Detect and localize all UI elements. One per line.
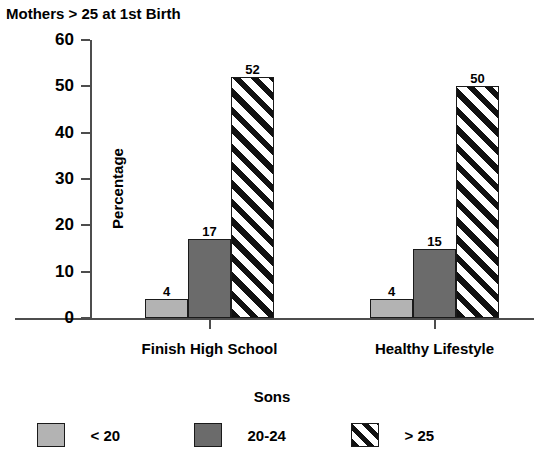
chart-legend: < 2020-24> 25 [0,418,544,452]
bar-chart: Mothers > 25 at 1st Birth 0102030405060 … [0,0,544,463]
y-axis-tick-label-wrap: 10 [26,263,74,281]
plot-area: Percentage 4175241550 [90,40,534,318]
y-axis-tick [81,39,90,41]
bar: 52 [231,77,274,318]
x-axis-category-label: Finish High School [142,340,278,357]
legend-item: > 25 [351,423,508,447]
y-axis-tick-label: 0 [30,309,74,326]
chart-title: Mothers > 25 at 1st Birth [6,5,181,22]
y-axis-title: Percentage [109,99,126,279]
bar-value-label: 17 [202,225,216,238]
y-axis-tick-label: 60 [30,31,74,48]
legend-swatch [351,423,379,447]
x-axis-line [15,318,534,320]
y-axis-tick-label-wrap: 20 [26,216,74,234]
y-axis-tick [81,85,90,87]
y-axis-tick-label: 10 [30,263,74,280]
legend-swatch [37,423,65,447]
legend-label: < 20 [91,427,121,444]
y-axis-tick-label-wrap: 30 [26,170,74,188]
legend-label: 20-24 [248,427,286,444]
y-axis-tick [81,132,90,134]
legend-item: 20-24 [194,423,351,447]
legend-item: < 20 [37,423,194,447]
x-axis-tick [209,320,211,329]
legend-swatch [194,423,222,447]
bar-value-label: 52 [245,63,259,76]
y-axis-tick [81,317,90,319]
y-axis-tick-label: 50 [30,77,74,94]
y-axis-tick-label: 40 [30,124,74,141]
y-axis-tick-label-wrap: 60 [26,31,74,49]
y-axis-tick-label: 20 [30,216,74,233]
y-axis-tick-label: 30 [30,170,74,187]
bar: 50 [456,86,499,318]
bar: 15 [413,249,456,319]
bar-value-label: 4 [163,285,170,298]
bar-value-label: 50 [470,72,484,85]
y-axis-tick [81,224,90,226]
bar: 17 [188,239,231,318]
x-axis-title: Sons [0,388,544,405]
y-axis-tick [81,178,90,180]
x-axis-tick [434,320,436,329]
bar: 4 [370,299,413,318]
bar-value-label: 4 [388,285,395,298]
bar-value-label: 15 [427,235,441,248]
y-axis-tick-label-wrap: 50 [26,77,74,95]
x-axis-category-label: Healthy Lifestyle [375,340,494,357]
y-axis-line [90,40,92,320]
y-axis-tick [81,271,90,273]
legend-label: > 25 [405,427,435,444]
bar: 4 [145,299,188,318]
y-axis-tick-label-wrap: 40 [26,124,74,142]
y-axis-tick-label-wrap: 0 [26,309,74,327]
